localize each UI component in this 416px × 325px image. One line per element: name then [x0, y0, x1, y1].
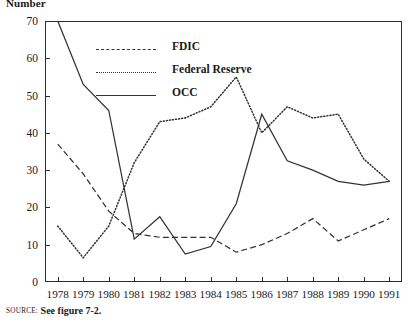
x-tick-label: 1990	[353, 288, 375, 300]
x-tick-mark	[364, 277, 365, 282]
y-tick-mark	[45, 207, 50, 208]
x-tick-mark	[134, 277, 135, 282]
y-tick-mark	[45, 170, 50, 171]
y-tick-mark	[45, 133, 50, 134]
legend-item-fdic: FDIC	[96, 40, 246, 63]
x-tick-label: 1978	[47, 288, 69, 300]
x-tick-label: 1987	[276, 288, 298, 300]
x-tick-label: 1988	[302, 288, 324, 300]
y-tick-mark	[45, 58, 50, 59]
x-tick-mark	[185, 277, 186, 282]
x-tick-mark	[262, 277, 263, 282]
y-tick-label: 20	[8, 201, 38, 213]
x-tick-label: 1985	[225, 288, 247, 300]
x-tick-mark	[160, 277, 161, 282]
y-tick-mark	[45, 96, 50, 97]
legend-swatch-solid	[96, 95, 156, 96]
y-tick-label: 30	[8, 164, 38, 176]
y-tick-label: 40	[8, 127, 38, 139]
axis-line-bottom	[45, 281, 402, 282]
x-tick-label: 1981	[123, 288, 145, 300]
x-tick-label: 1984	[200, 288, 222, 300]
x-tick-label: 1980	[98, 288, 120, 300]
x-tick-mark	[287, 277, 288, 282]
y-tick-label: 0	[8, 276, 38, 288]
x-tick-mark	[83, 277, 84, 282]
legend-label: Federal Reserve	[172, 63, 252, 75]
legend-swatch-dashed	[96, 49, 156, 50]
axis-line-left	[45, 21, 46, 282]
x-tick-mark	[313, 277, 314, 282]
x-tick-label: 1991	[378, 288, 400, 300]
x-axis-tick-labels: 1978197919801981198219831984198519861987…	[0, 288, 416, 304]
x-tick-mark	[58, 277, 59, 282]
y-tick-label: 50	[8, 90, 38, 102]
series-line-fdic	[58, 144, 390, 252]
y-tick-label: 60	[8, 52, 38, 64]
x-tick-label: 1986	[251, 288, 273, 300]
y-tick-mark	[45, 245, 50, 246]
axis-line-right	[401, 21, 402, 282]
legend-item-occ: OCC	[96, 86, 246, 109]
figure-container: Number 706050403020100 19781979198019811…	[0, 0, 416, 325]
y-axis-tick-labels: 706050403020100	[4, 0, 38, 325]
x-tick-label: 1982	[149, 288, 171, 300]
legend-label: OCC	[172, 86, 198, 98]
x-tick-mark	[389, 277, 390, 282]
x-tick-mark	[338, 277, 339, 282]
chart-legend: FDICFederal ReserveOCC	[96, 40, 246, 109]
legend-label: FDIC	[172, 40, 200, 52]
x-tick-mark	[236, 277, 237, 282]
x-tick-mark	[211, 277, 212, 282]
y-tick-label: 70	[8, 15, 38, 27]
x-tick-label: 1989	[327, 288, 349, 300]
x-tick-label: 1983	[174, 288, 196, 300]
axis-line-top	[45, 21, 402, 22]
source-note: SOURCE: See figure 7-2.	[6, 305, 101, 316]
x-tick-label: 1979	[72, 288, 94, 300]
x-tick-mark	[109, 277, 110, 282]
legend-swatch-dotted	[96, 72, 156, 73]
y-tick-label: 10	[8, 239, 38, 251]
source-note-label: SOURCE:	[6, 307, 38, 315]
source-note-text: See figure 7-2.	[41, 305, 102, 316]
legend-item-federal-reserve: Federal Reserve	[96, 63, 246, 86]
